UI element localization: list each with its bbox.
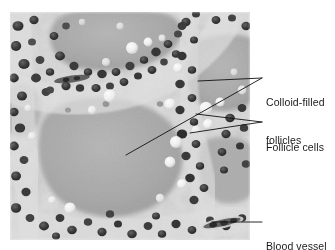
label-blood-vessel: Blood vessel [266,215,327,250]
film-grain [10,12,250,240]
label-follicle-cells-line1: Follicle cells [266,141,324,154]
figure-panel: Colloid-filled follicles Follicle cells … [0,0,335,250]
histology-micrograph [10,12,250,240]
label-follicle-cells: Follicle cells [266,116,324,179]
label-blood-vessel-line1: Blood vessel [266,240,327,250]
label-colloid-line1: Colloid-filled [266,96,325,109]
micrograph-canvas [10,12,250,240]
